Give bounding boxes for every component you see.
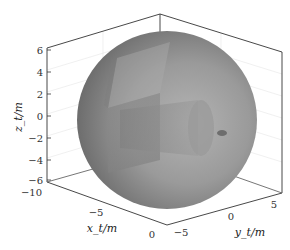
svg-text:0: 0	[37, 111, 43, 122]
svg-text:4: 4	[37, 67, 43, 78]
svg-text:−6: −6	[28, 175, 43, 186]
z-axis-tick-labels: 6 4 2 0 −2 −4 −6	[28, 45, 43, 186]
svg-text:5: 5	[271, 199, 277, 210]
3d-surface-plot: 6 4 2 0 −2 −4 −6 z_t/m −10 −5 0 x_t/m −5…	[0, 0, 290, 250]
z-axis-label: z_t/m	[12, 102, 25, 133]
svg-text:−5: −5	[174, 227, 189, 238]
svg-text:6: 6	[37, 45, 43, 56]
svg-text:0: 0	[149, 229, 155, 240]
svg-text:−10: −10	[21, 187, 42, 198]
svg-text:0: 0	[228, 211, 234, 222]
svg-text:2: 2	[37, 89, 43, 100]
svg-text:−5: −5	[89, 207, 104, 218]
svg-text:−2: −2	[28, 133, 43, 144]
y-axis-label: y_t/m	[234, 226, 265, 239]
x-axis-label: x_t/m	[87, 222, 117, 235]
svg-text:−4: −4	[28, 155, 43, 166]
